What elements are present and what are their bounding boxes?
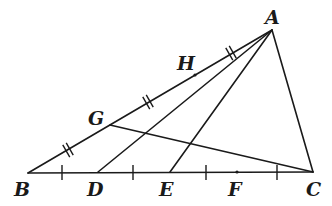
label-A: A — [263, 6, 280, 28]
label-B: B — [13, 178, 30, 200]
label-D: D — [86, 178, 104, 200]
label-E: E — [158, 178, 174, 200]
segment-GC — [110, 125, 313, 172]
label-H: H — [176, 52, 196, 74]
triangle-diagram: A B C D E F G H — [0, 0, 332, 206]
segment-CA — [272, 30, 313, 172]
label-C: C — [306, 178, 321, 200]
label-G: G — [88, 107, 104, 129]
ab-equal-double-ticks — [63, 46, 236, 157]
label-F: F — [227, 178, 243, 200]
point-F-dot — [235, 170, 238, 173]
